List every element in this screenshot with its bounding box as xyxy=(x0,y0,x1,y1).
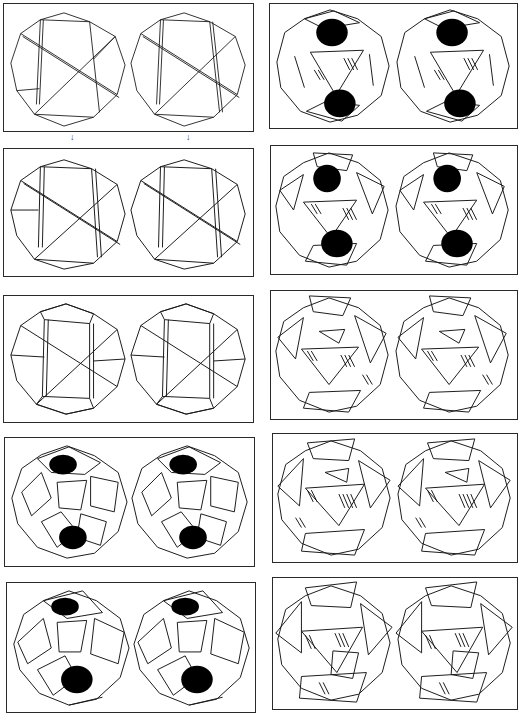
stereo-pair-wireframe-3 xyxy=(4,296,253,422)
stereo-pair-wireframe-2 xyxy=(4,149,253,276)
panel-L2 xyxy=(3,148,254,277)
stereo-pair-hatched-4 xyxy=(273,434,517,562)
stereo-pair-wireframe-1 xyxy=(4,4,253,131)
panel-R3 xyxy=(270,290,518,420)
panel-L1 xyxy=(3,3,254,132)
stereo-pair-hatched-3 xyxy=(271,291,517,419)
panel-L5 xyxy=(6,582,256,713)
panel-R4 xyxy=(272,433,518,563)
stereo-pair-faces-5 xyxy=(7,583,255,712)
stereo-pair-hatched-1 xyxy=(270,4,517,128)
panel-R2 xyxy=(270,145,518,275)
stereo-pair-hatched-5 xyxy=(273,578,517,709)
stereo-pair-hatched-2 xyxy=(271,146,517,274)
panel-R1 xyxy=(269,3,518,129)
arrow-down-icon: ↓ xyxy=(186,133,191,142)
stereo-pair-faces-4 xyxy=(5,438,254,566)
panel-L4 xyxy=(4,437,255,567)
panel-R5 xyxy=(272,577,518,710)
panel-L3 xyxy=(3,295,254,423)
arrow-down-icon: ↓ xyxy=(70,133,75,142)
